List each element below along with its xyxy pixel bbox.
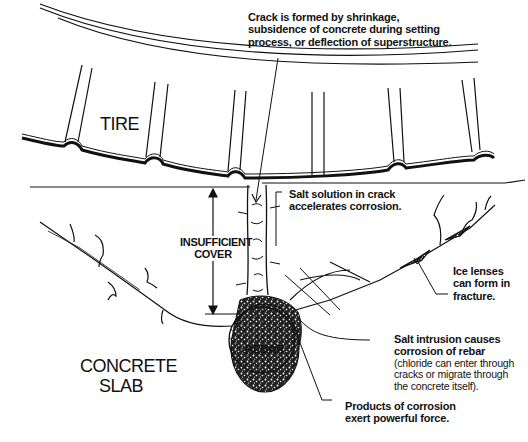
ice-lenses-callout: Ice lenses can form in fracture.	[453, 265, 510, 302]
salt-intrusion-detail-3: the concrete itself).	[394, 381, 514, 393]
concrete-slab-line-1: CONCRETE	[80, 356, 162, 376]
crack-formed-line-3: process, or deflection of superstructure…	[248, 36, 451, 48]
insufficient-cover-line-1: INSUFFICIENT	[180, 236, 246, 248]
insufficient-cover-line-2: COVER	[180, 248, 246, 260]
salt-intrusion-callout: Salt intrusion causes corrosion of rebar…	[394, 333, 514, 393]
crack-formed-line-2: subsidence of concrete during setting	[248, 23, 451, 35]
salt-solution-bracket	[276, 192, 282, 246]
ice-lenses-line-1: Ice lenses	[453, 265, 510, 277]
crack-formed-line-1: Crack is formed by shrinkage,	[248, 11, 451, 23]
rebar-label: REBAR	[245, 343, 284, 355]
products-corrosion-line-1: Products of corrosion	[345, 400, 456, 412]
ice-lenses-line-3: fracture.	[453, 290, 510, 302]
salt-solution-line-2: accelerates corrosion.	[289, 200, 401, 212]
salt-intrusion-heading-1: Salt intrusion causes	[394, 333, 514, 345]
salt-intrusion-leader	[300, 320, 370, 340]
concrete-slab-line-2: SLAB	[80, 376, 162, 396]
ice-lenses-leader	[418, 262, 448, 294]
insufficient-cover-label: INSUFFICIENT COVER	[180, 236, 246, 261]
slab-surface-line	[30, 180, 525, 187]
concrete-slab-label: CONCRETE SLAB	[80, 356, 162, 396]
concrete-corrosion-diagram: Crack is formed by shrinkage, subsidence…	[0, 0, 528, 442]
crack-formed-callout: Crack is formed by shrinkage, subsidence…	[248, 11, 451, 48]
products-corrosion-line-2: exert powerful force.	[345, 412, 456, 424]
ice-lenses-line-2: can form in	[453, 277, 510, 289]
salt-solution-callout: Salt solution in crack accelerates corro…	[289, 188, 401, 213]
tire-label: TIRE	[100, 114, 139, 134]
salt-solution-line-1: Salt solution in crack	[289, 188, 401, 200]
salt-intrusion-heading-2: corrosion of rebar	[394, 345, 514, 357]
products-corrosion-callout: Products of corrosion exert powerful for…	[345, 400, 456, 425]
